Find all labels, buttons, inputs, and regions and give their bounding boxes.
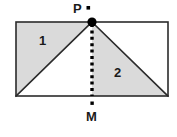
geometry-figure: P M 1 2 bbox=[0, 0, 177, 137]
point-p-marker bbox=[87, 17, 96, 26]
m-point-square-tick bbox=[90, 102, 93, 105]
region-2-label: 2 bbox=[114, 66, 121, 79]
region-1-label: 1 bbox=[39, 34, 46, 47]
p-point-square-tick bbox=[87, 6, 91, 10]
point-m-label: M bbox=[86, 110, 97, 123]
point-p-label: P bbox=[73, 2, 82, 15]
